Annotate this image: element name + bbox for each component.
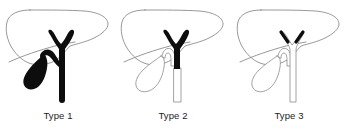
gallbladder	[23, 54, 47, 89]
panel-caption: Type 1	[0, 110, 116, 122]
type-1-illustration	[0, 0, 116, 112]
biliary-types-figure: Type 1 Type 2	[0, 0, 347, 132]
type-2-illustration	[115, 0, 231, 112]
biliary-duct-tree	[281, 32, 304, 102]
panel-caption: Type 2	[115, 110, 231, 122]
panel-type-3: Type 3	[231, 0, 347, 132]
panel-type-1: Type 1	[0, 0, 116, 132]
type-3-illustration	[231, 0, 347, 112]
common-bile-duct-lower	[174, 68, 181, 102]
biliary-duct-tree	[48, 30, 74, 103]
panel-type-2: Type 2	[115, 0, 231, 132]
panel-caption: Type 3	[231, 110, 347, 122]
